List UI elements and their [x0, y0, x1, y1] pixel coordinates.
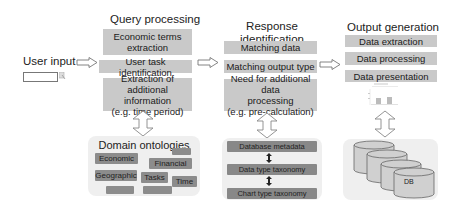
arrow-right-icon — [197, 57, 219, 68]
database-label: DB — [404, 178, 414, 185]
double-arrow-vertical-icon — [131, 110, 155, 137]
double-arrow-vertical-icon — [255, 112, 279, 139]
title-line: Response — [222, 20, 322, 33]
step-text: processing — [248, 95, 294, 106]
bidirectional-arrow-icon — [266, 176, 272, 186]
step-text: Need for additional data — [224, 73, 317, 95]
step-additional-data-processing: Need for additional data processing (e.g… — [224, 79, 317, 111]
input-cursor-icon — [59, 72, 66, 80]
bidirectional-arrow-icon — [266, 153, 272, 163]
database-metadata-bar: Database metadata — [227, 141, 317, 152]
ontology-unlabeled — [106, 186, 134, 194]
step-text: extraction — [127, 42, 168, 53]
arrow-right-icon — [76, 57, 98, 68]
step-data-processing: Data processing — [345, 52, 437, 65]
step-data-extraction: Data extraction — [345, 35, 437, 47]
step-data-presentation: Data presentation — [345, 70, 437, 82]
step-text: Matching output type — [226, 61, 314, 72]
ontology-unlabeled — [143, 186, 172, 194]
database-cylinders-icon — [350, 140, 436, 200]
user-input-field[interactable] — [23, 72, 58, 82]
ontology-tasks: Tasks — [141, 172, 168, 183]
chart-thumbnail — [366, 83, 406, 111]
ontology-economic: Economic — [95, 153, 138, 164]
ontology-time: Time — [172, 176, 197, 187]
step-text: information — [124, 95, 171, 106]
step-text: Economic terms — [113, 31, 181, 42]
ontology-geographic: Geographic — [95, 170, 137, 181]
query-processing-title: Query processing — [100, 13, 210, 26]
ontology-unlabeled — [172, 148, 191, 155]
output-generation-title: Output generation — [343, 21, 443, 34]
step-text: Matching data — [241, 42, 301, 53]
step-economic-terms-extraction: Economic terms extraction — [103, 29, 192, 55]
step-matching-output-type: Matching output type — [224, 60, 317, 73]
user-input-label: User input — [23, 55, 75, 67]
chart-type-taxonomy-bar: Chart type taxonomy — [227, 188, 317, 199]
step-text: Extraction of additional — [103, 73, 192, 95]
arrow-right-icon — [319, 59, 341, 70]
step-matching-data: Matching data — [224, 41, 317, 54]
step-user-task-identification: User task identification — [99, 60, 192, 73]
ontology-financial: Financial — [149, 158, 192, 169]
double-arrow-vertical-icon — [373, 110, 397, 138]
step-extraction-additional-info: Extraction of additional information (e.… — [103, 78, 192, 111]
data-type-taxonomy-bar: Data type taxonomy — [227, 164, 317, 175]
